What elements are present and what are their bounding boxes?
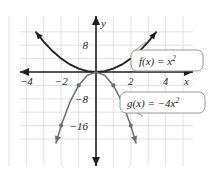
- coordinate-plane: −4−2248−8−16 x y f(x) = x2 g(x) = −4x2: [0, 0, 209, 177]
- callout-f-fn: f(x): [139, 55, 155, 68]
- y-tick-label: −16: [70, 120, 89, 132]
- callout-g-lead: = −4x: [145, 97, 176, 109]
- x-tick-label: 2: [128, 75, 134, 87]
- data-point: [59, 124, 63, 128]
- x-tick-label: −4: [20, 75, 33, 87]
- data-point: [77, 83, 81, 87]
- callout-g-exponent: 2: [175, 96, 179, 105]
- callout-f-lead: = x: [154, 55, 172, 67]
- x-tick-label: −2: [55, 75, 68, 87]
- y-axis-arrow-up: [92, 16, 100, 25]
- data-point: [111, 83, 115, 87]
- y-axis-label: y: [100, 17, 106, 29]
- y-tick-label: 8: [83, 39, 89, 51]
- x-axis-label: x: [183, 75, 189, 87]
- data-point: [129, 124, 133, 128]
- graph-figure: −4−2248−8−16 x y f(x) = x2 g(x) = −4x2: [0, 0, 209, 177]
- callout-g-fn: g(x): [127, 97, 145, 110]
- y-axis-arrow-down: [92, 157, 100, 166]
- x-tick-label: 4: [163, 75, 169, 87]
- axis-group: [20, 16, 193, 166]
- callout-g-text: g(x) = −4x2: [127, 96, 179, 110]
- callout-f: f(x) = x2: [131, 50, 203, 71]
- grid-lines: [9, 16, 193, 166]
- callout-f-exponent: 2: [172, 54, 176, 63]
- y-tick-label: −8: [75, 93, 88, 105]
- callout-f-text: f(x) = x2: [139, 54, 176, 68]
- callout-g: g(x) = −4x2: [120, 92, 205, 113]
